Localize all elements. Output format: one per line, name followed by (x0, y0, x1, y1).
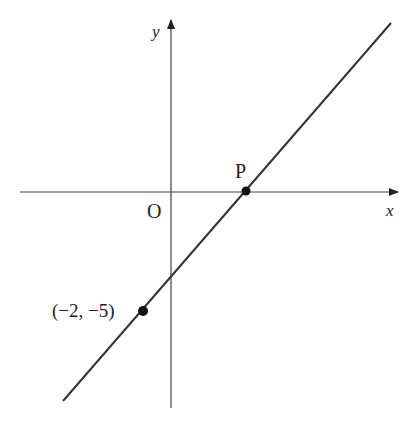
point-p-label: P (235, 160, 246, 182)
point-given-label: (−2, −5) (52, 300, 115, 322)
point-p (242, 187, 251, 196)
y-axis-label: y (150, 22, 160, 41)
point-given (138, 306, 148, 316)
x-axis-label: x (385, 201, 394, 220)
graph-line (63, 23, 391, 401)
origin-label: O (147, 200, 161, 222)
coordinate-diagram: y x O P (−2, −5) (0, 0, 413, 424)
